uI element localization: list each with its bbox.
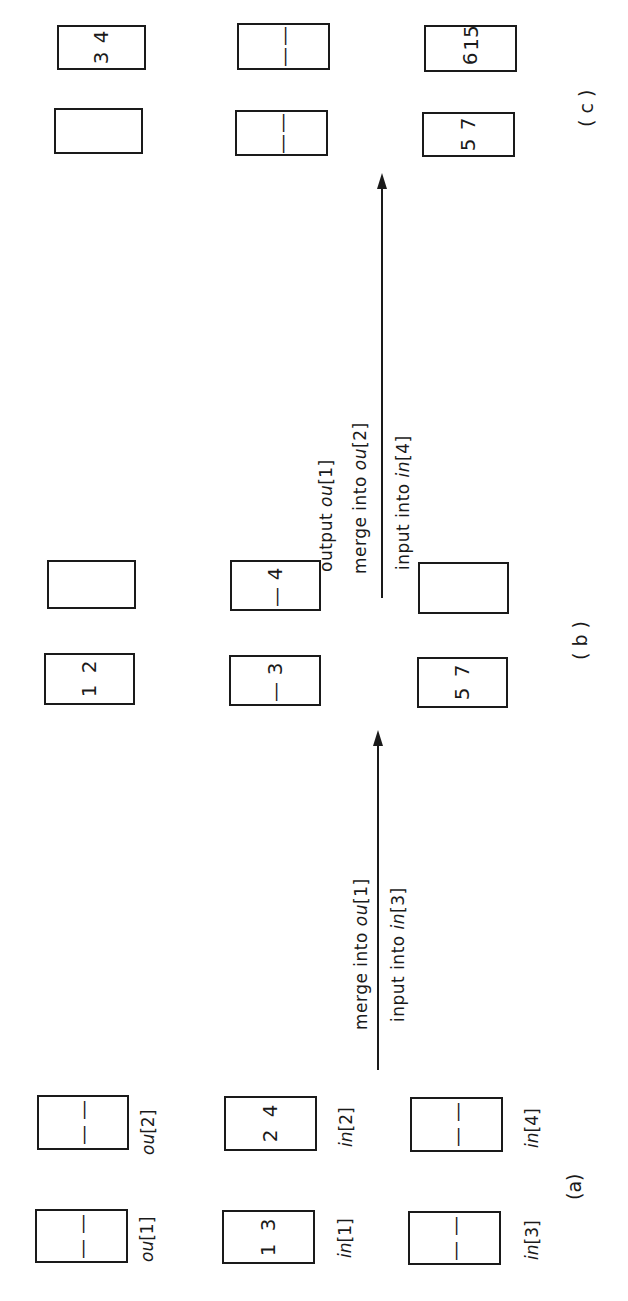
buffer-slot-2: 7 [458, 118, 478, 131]
arrow-head-icon [377, 173, 387, 189]
step-merge-into-ou1: merge into ou[1] [353, 878, 370, 1030]
panel-a-in3-buffer: — — [408, 1211, 501, 1265]
panel-b-in3-buffer: 5 7 [417, 657, 508, 708]
buffer-slot-2: — [72, 1214, 92, 1234]
buffer-slot-1: 6 [460, 53, 480, 66]
buffer-slot-1: 3 [91, 51, 111, 64]
step-input-into-in4: input into in[4] [395, 435, 412, 570]
panel-a-ou2-buffer: — — [37, 1095, 129, 1150]
panel-c-in4-buffer: 6 15 [424, 25, 517, 72]
buffer-slot-2: — [274, 26, 294, 46]
buffer-slot-2: — [73, 1100, 93, 1120]
panel-c-ou2-buffer: 3 4 [57, 25, 146, 70]
buffer-slot-1: 5 [452, 688, 472, 701]
buffer-slot-1: 1 [258, 1243, 278, 1256]
step-merge-into-ou2: merge into ou[2] [352, 422, 369, 574]
panel-a-in4-buffer: — — [410, 1097, 503, 1152]
buffer-slot-2: — [445, 1216, 465, 1236]
buffer-slot-2: 2 [79, 661, 99, 674]
buffer-slot-1: — [274, 47, 294, 67]
panel-a-in1-buffer: 1 3 [222, 1210, 315, 1264]
label-in1: in[1] [337, 1218, 354, 1258]
panel-c-ou1-buffer [54, 108, 143, 154]
arrow-head-icon [373, 730, 383, 746]
merge-sort-buffer-diagram: — — ou[1] — — ou[2] 1 3 in[1] 2 4 in[2] [0, 0, 628, 1301]
buffer-slot-1: — [73, 1125, 93, 1145]
buffer-slot-1: 1 [79, 685, 99, 698]
buffer-slot-1: — [72, 1239, 92, 1259]
label-ou1: ou[1] [139, 1217, 156, 1262]
label-in3: in[3] [524, 1220, 541, 1260]
buffer-slot-2: 4 [260, 1104, 280, 1117]
panel-a-in2-buffer: 2 4 [224, 1096, 317, 1151]
buffer-slot-1: 5 [458, 138, 478, 151]
buffer-slot-2: 7 [452, 664, 472, 677]
panel-b-in2-buffer: — 4 [230, 560, 321, 611]
buffer-slot-1: — [272, 134, 292, 154]
buffer-slot-1: — [266, 587, 286, 607]
buffer-slot-1: — [447, 1127, 467, 1147]
buffer-slot-1: 2 [260, 1130, 280, 1143]
panel-c-caption: ( c ) [577, 90, 596, 127]
panel-b-ou1-buffer: 1 2 [44, 653, 135, 705]
panel-c-in1-buffer: — — [235, 110, 328, 156]
buffer-slot-2: 4 [91, 31, 111, 44]
panel-c-in3-buffer: 5 7 [422, 112, 515, 157]
panel-b-in1-buffer: — 3 [229, 655, 321, 706]
panel-b-ou2-buffer [47, 560, 136, 609]
panel-a-caption: (a) [565, 1174, 584, 1200]
step-input-into-in3: input into in[3] [390, 887, 407, 1022]
label-in4: in[4] [524, 1108, 541, 1148]
panel-c-in2-buffer: — — [237, 23, 330, 70]
buffer-slot-1: — [265, 682, 285, 702]
arrow-up-line [377, 745, 379, 1070]
buffer-slot-2: 3 [258, 1218, 278, 1231]
buffer-slot-2: — [272, 113, 292, 133]
step-output-ou1: output ou[1] [318, 459, 335, 572]
label-in2: in[2] [338, 1107, 355, 1147]
panel-a-ou1-buffer: — — [35, 1209, 128, 1263]
buffer-slot-2: 4 [265, 567, 285, 580]
panel-b-in4-buffer [418, 562, 509, 614]
buffer-slot-2: 3 [265, 662, 285, 675]
buffer-slot-2: — [447, 1102, 467, 1122]
buffer-slot-1: — [445, 1241, 465, 1261]
label-ou2: ou[2] [140, 1110, 157, 1155]
arrow-up-line [381, 188, 383, 598]
buffer-slot-2: 15 [460, 25, 480, 50]
panel-b-caption: ( b ) [571, 621, 590, 660]
